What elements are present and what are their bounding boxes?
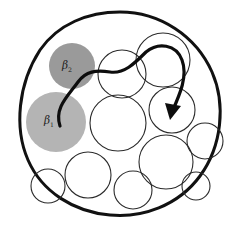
label-beta2-subscript: 2 [68,66,72,73]
open-circle [65,152,111,198]
diagram-root: β1 β2 [0,0,242,227]
open-circle [90,95,146,151]
open-circle [182,172,210,200]
open-circle [114,171,152,209]
label-beta1-base: β [43,114,50,126]
label-beta2-base: β [61,59,68,71]
label-beta1-subscript: 1 [50,121,54,128]
open-circle [187,123,223,159]
shaded-circle-beta1 [26,92,86,152]
open-circle [31,169,65,203]
diagram-canvas: β1 β2 [0,0,242,227]
